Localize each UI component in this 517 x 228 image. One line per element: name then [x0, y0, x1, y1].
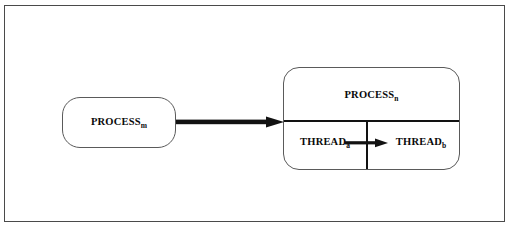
thread-b-label: THREADb — [385, 136, 457, 147]
thread-transition-arrow — [345, 138, 388, 148]
thread-a-label-text: THREAD — [300, 136, 346, 147]
diagram-canvas: PROCESSm PROCESSn THREADa THREADb — [0, 0, 517, 228]
process-n-horizontal-divider — [284, 120, 459, 122]
process-n-box — [283, 67, 460, 170]
thread-b-label-text: THREAD — [396, 136, 442, 147]
thread-b-subscript: b — [442, 141, 446, 150]
process-n-label-text: PROCESS — [344, 89, 394, 100]
process-n-label: PROCESSn — [283, 89, 460, 100]
process-m-subscript: m — [141, 121, 147, 130]
process-n-subscript: n — [394, 94, 398, 103]
ipc-arrow — [176, 116, 284, 128]
process-m-label-text: PROCESS — [91, 116, 141, 127]
